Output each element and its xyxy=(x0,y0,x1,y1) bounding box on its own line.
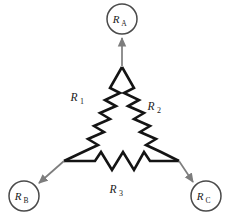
delta-network-figure: R A R B R C R 1 R 2 R 3 xyxy=(0,0,230,219)
resistor-r2-zigzag xyxy=(122,67,179,161)
terminal-c-label-base: R xyxy=(196,190,204,202)
arrow-to-terminal-c xyxy=(179,161,193,182)
terminal-b-label-base: R xyxy=(14,190,22,202)
resistor-r3-zigzag xyxy=(64,152,179,170)
resistor-r1-label-base: R xyxy=(69,91,77,103)
terminal-a-label-subscript: A xyxy=(121,19,127,28)
resistor-r1-zigzag xyxy=(64,67,122,161)
terminal-b-label-subscript: B xyxy=(23,196,28,205)
terminal-a-label-base: R xyxy=(112,13,120,25)
resistor-r2-label-subscript: 2 xyxy=(157,106,161,115)
resistor-r2-label-base: R xyxy=(146,100,154,112)
terminal-c-label-subscript: C xyxy=(205,196,210,205)
resistor-branches xyxy=(64,67,179,170)
resistor-r1-label-subscript: 1 xyxy=(80,97,84,106)
circuit-diagram-canvas: R A R B R C R 1 R 2 R 3 xyxy=(0,0,230,219)
resistor-r3-label-subscript: 3 xyxy=(119,189,123,198)
arrow-to-terminal-b xyxy=(39,161,64,183)
resistor-r3-label-base: R xyxy=(108,183,116,195)
